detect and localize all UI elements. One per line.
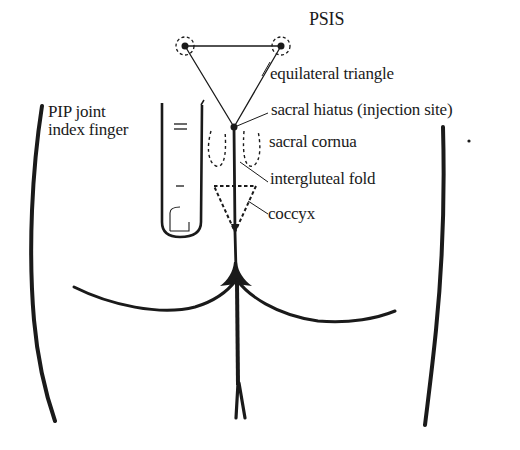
intergluteal-fold-line bbox=[234, 127, 236, 270]
sacral-landmark-diagram bbox=[0, 0, 520, 450]
label-index-finger: index finger bbox=[48, 121, 128, 139]
right-gluteal-curve bbox=[237, 280, 395, 322]
equilateral-triangle bbox=[185, 46, 281, 127]
right-sacral-cornu bbox=[243, 131, 259, 166]
finger-tip-stroke bbox=[201, 100, 204, 105]
leader-equilateral-triangle bbox=[262, 62, 270, 76]
label-coccyx: coccyx bbox=[268, 205, 315, 223]
label-equilateral-triangle: equilateral triangle bbox=[270, 65, 394, 83]
lower-midline-left-leg bbox=[236, 383, 238, 418]
leader-coccyx bbox=[248, 201, 268, 214]
label-psis: PSIS bbox=[309, 10, 344, 28]
label-pip-joint: PIP joint bbox=[48, 103, 106, 121]
label-intergluteal-fold: intergluteal fold bbox=[270, 170, 375, 188]
left-gluteal-curve bbox=[74, 280, 236, 310]
lower-midline bbox=[237, 282, 238, 385]
left-sacral-cornu bbox=[208, 131, 225, 166]
label-sacral-cornua: sacral cornua bbox=[269, 133, 357, 151]
left-body-outline bbox=[31, 106, 55, 421]
stray-dot bbox=[467, 139, 470, 142]
pip-joint-crease bbox=[174, 124, 187, 129]
lower-midline-right-leg bbox=[239, 383, 245, 418]
fingernail bbox=[170, 207, 189, 231]
label-sacral-hiatus: sacral hiatus (injection site) bbox=[271, 101, 452, 119]
right-body-outline bbox=[425, 127, 444, 425]
coccyx-tip bbox=[231, 224, 239, 234]
leader-intergluteal-fold bbox=[240, 162, 268, 182]
index-finger-outline bbox=[162, 103, 202, 237]
